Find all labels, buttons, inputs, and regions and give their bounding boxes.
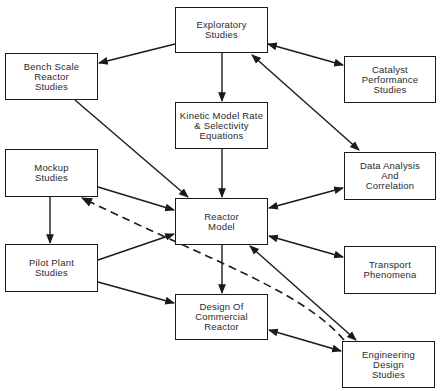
node-transport: Transport Phenomena <box>344 246 436 294</box>
node-data: Data Analysis And Correlation <box>344 152 436 200</box>
edge-exploratory-catalyst <box>268 44 343 65</box>
node-kinetic: Kinetic Model Rate & Selectivity Equatio… <box>175 102 268 149</box>
node-catalyst: Catalyst Performance Studies <box>344 56 436 103</box>
node-exploratory: Exploratory Studies <box>175 7 268 53</box>
node-label: Design Of Commercial Reactor <box>195 302 248 332</box>
edge-data-exploratory <box>252 55 359 150</box>
node-pilot: Pilot Plant Studies <box>5 244 98 292</box>
edge-pilot-reactor <box>98 234 174 260</box>
edge-design-engineering <box>269 330 341 351</box>
edge-mockup-reactor <box>98 187 174 210</box>
edge-reactor-transport <box>269 236 343 257</box>
node-design: Design Of Commercial Reactor <box>175 294 268 340</box>
node-label: Mockup Studies <box>34 163 68 183</box>
node-label: Bench Scale Reactor Studies <box>24 62 80 92</box>
edge-reactor-data <box>269 188 343 208</box>
node-label: Kinetic Model Rate & Selectivity Equatio… <box>180 111 263 141</box>
node-label: Transport Phenomena <box>363 260 416 280</box>
edge-exploratory-bench <box>99 44 175 63</box>
node-reactor: Reactor Model <box>175 198 268 245</box>
node-label: Exploratory Studies <box>196 20 246 40</box>
node-label: Data Analysis And Correlation <box>360 161 420 191</box>
node-engineering: Engineering Design Studies <box>342 341 435 388</box>
node-mockup: Mockup Studies <box>5 149 98 197</box>
node-label: Engineering Design Studies <box>362 350 415 380</box>
edge-pilot-design <box>98 282 174 303</box>
node-bench: Bench Scale Reactor Studies <box>5 53 98 100</box>
node-label: Catalyst Performance Studies <box>362 65 419 95</box>
node-label: Pilot Plant Studies <box>29 258 74 278</box>
node-label: Reactor Model <box>204 212 239 232</box>
